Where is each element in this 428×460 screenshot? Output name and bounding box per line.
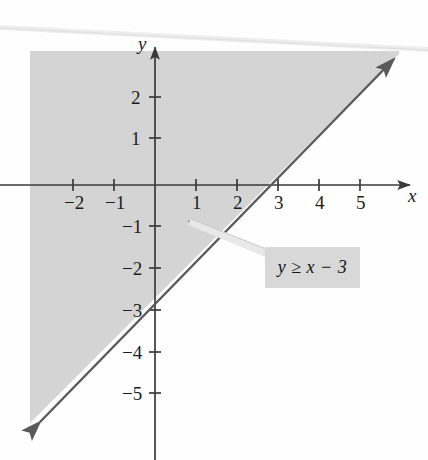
y-tick-label--3: −3 [122, 301, 142, 320]
solution-region-shading [30, 51, 399, 423]
x-tick-label-5: 5 [356, 193, 366, 212]
inequality-callout-text: y ≥ x − 3 [278, 257, 348, 278]
y-tick-label--1: −1 [122, 217, 142, 236]
y-tick-label--5: −5 [122, 384, 142, 403]
y-tick-label--4: −4 [122, 343, 142, 362]
x-tick-label--2: −2 [64, 193, 84, 212]
x-tick-label-4: 4 [315, 193, 325, 212]
x-tick-label-2: 2 [233, 193, 243, 212]
y-tick-label--2: −2 [122, 259, 142, 278]
x-tick-label--1: −1 [105, 193, 125, 212]
graph-canvas [0, 0, 428, 460]
y-axis-label: y [138, 34, 146, 53]
y-tick-label-1: 1 [131, 129, 141, 148]
x-tick-label-1: 1 [192, 193, 202, 212]
scan-artifact-streak [0, 25, 428, 52]
y-tick-label-2: 2 [131, 88, 141, 107]
inequality-callout-box: y ≥ x − 3 [265, 247, 360, 288]
x-axis-label: x [408, 186, 416, 205]
x-tick-label-3: 3 [274, 193, 284, 212]
inequality-graph-figure: −2 −1 1 2 3 4 5 2 1 −1 −2 −3 −4 −5 y x y… [0, 0, 428, 460]
